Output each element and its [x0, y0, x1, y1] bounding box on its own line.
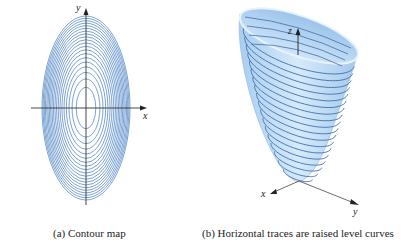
caption-a: (a) Contour map — [53, 227, 126, 239]
y-axis-3d-arrow-icon — [350, 199, 359, 205]
figure-canvas — [0, 0, 405, 247]
paraboloid-surface — [234, 0, 364, 182]
contour-x-label: x — [143, 110, 147, 121]
caption-b: (b) Horizontal traces are raised level c… — [202, 227, 394, 239]
y-axis-3d — [299, 181, 354, 203]
y-axis-arrow-icon — [84, 8, 89, 15]
surface-x-label: x — [261, 188, 265, 199]
contour-y-label: y — [76, 2, 80, 13]
surface-y-label: y — [353, 206, 357, 217]
surface-z-label: z — [288, 25, 292, 36]
x-axis-3d — [274, 181, 299, 192]
x-axis-3d-arrow-icon — [270, 189, 277, 194]
